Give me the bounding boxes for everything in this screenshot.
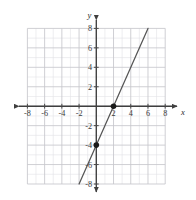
y-axis-label: y [87,10,92,20]
x-tick-label: -4 [58,109,65,118]
x-tick-label: 4 [129,109,133,118]
data-point-marker [94,142,100,148]
coordinate-plane-graph: -8-6-4-22468 8642-2-4-6-8 x y [0,0,196,200]
data-point-marker [111,103,117,109]
graph-canvas: -8-6-4-22468 8642-2-4-6-8 x y [0,0,196,200]
y-tick-label: 8 [88,24,92,33]
y-tick-label: -2 [85,122,92,131]
y-tick-label: -8 [85,180,92,189]
x-tick-label: 8 [163,109,167,118]
x-tick-label: -6 [41,109,48,118]
canvas-background [0,0,196,200]
x-tick-label: -2 [76,109,83,118]
y-tick-label: 2 [88,83,92,92]
y-tick-label: 6 [88,44,92,53]
x-axis-label: x [180,107,185,117]
y-tick-label: 4 [88,63,92,72]
y-tick-label: -4 [85,141,92,150]
x-tick-label: 6 [146,109,150,118]
x-tick-label: -8 [24,109,31,118]
